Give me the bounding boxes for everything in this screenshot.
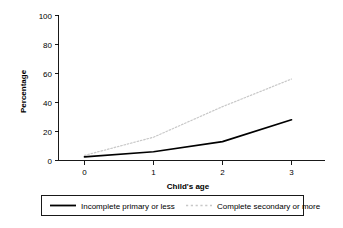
y-tick-label-100: 100 xyxy=(39,12,53,21)
x-tick-label-2: 2 xyxy=(220,168,225,177)
chart-container: 100 80 60 40 20 0 Percentage 0 1 2 3 Chi… xyxy=(0,0,343,228)
x-tick-label-0: 0 xyxy=(82,168,87,177)
y-axis-title: Percentage xyxy=(19,69,28,113)
x-tick-label-1: 1 xyxy=(151,168,156,177)
y-tick-label-40: 40 xyxy=(43,99,52,108)
y-tick-label-60: 60 xyxy=(43,70,52,79)
x-axis-title: Child's age xyxy=(167,182,210,191)
legend-label-incomplete-primary-or-less: Incomplete primary or less xyxy=(81,202,175,211)
legend-label-complete-secondary-or-more: Complete secondary or more xyxy=(217,202,321,211)
y-tick-label-0: 0 xyxy=(48,157,53,166)
series-line-complete-secondary-or-more xyxy=(85,79,292,155)
y-tick-label-80: 80 xyxy=(43,41,52,50)
y-tick-label-20: 20 xyxy=(43,128,52,137)
legend: Incomplete primary or less Complete seco… xyxy=(42,196,321,216)
series-line-incomplete-primary-or-less xyxy=(85,120,292,157)
x-tick-label-3: 3 xyxy=(289,168,294,177)
line-chart: 100 80 60 40 20 0 Percentage 0 1 2 3 Chi… xyxy=(0,0,343,228)
series-group xyxy=(85,79,292,157)
